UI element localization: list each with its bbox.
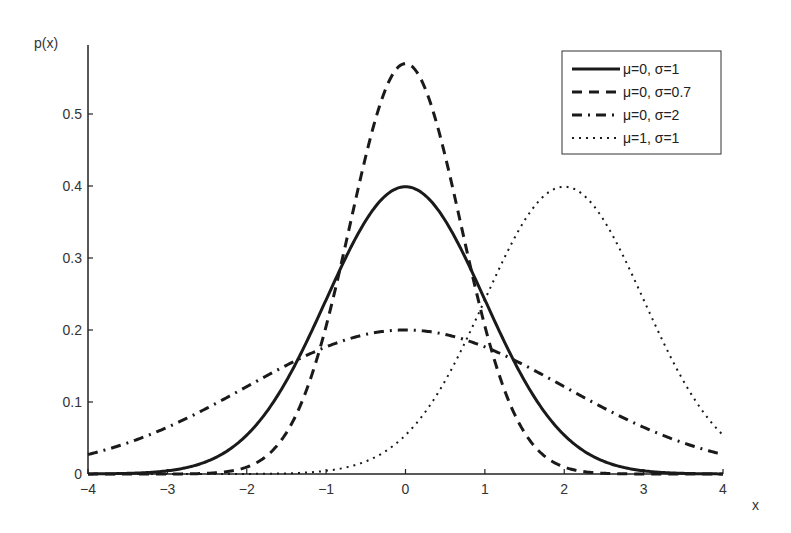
y-tick-label: 0.4 (63, 178, 83, 194)
y-tick-label: 0.3 (63, 250, 83, 266)
x-tick-label: −3 (159, 481, 175, 497)
y-axis-label: p(x) (34, 35, 58, 51)
x-axis-label: x (752, 497, 759, 513)
x-tick-label: 0 (402, 481, 410, 497)
x-tick-label: −4 (80, 481, 96, 497)
x-tick-label: −1 (318, 481, 334, 497)
y-tick-label: 0.2 (63, 322, 83, 338)
y-tick-label: 0 (74, 466, 82, 482)
x-tick-label: −2 (239, 481, 255, 497)
chart: −4−3−2−10123400.10.20.30.40.5 μ=0, σ=1μ=… (0, 0, 791, 533)
y-tick-label: 0.1 (63, 394, 83, 410)
legend-entry: μ=0, σ=2 (623, 107, 680, 123)
y-tick-label: 0.5 (63, 106, 83, 122)
legend-entry: μ=0, σ=0.7 (623, 84, 691, 100)
x-tick-label: 4 (719, 481, 727, 497)
x-tick-label: 2 (560, 481, 568, 497)
x-tick-label: 1 (481, 481, 489, 497)
legend: μ=0, σ=1μ=0, σ=0.7μ=0, σ=2μ=1, σ=1 (562, 51, 721, 154)
legend-entry: μ=0, σ=1 (623, 61, 680, 77)
legend-entry: μ=1, σ=1 (623, 130, 680, 146)
x-tick-label: 3 (640, 481, 648, 497)
curve-series-2 (88, 330, 723, 455)
